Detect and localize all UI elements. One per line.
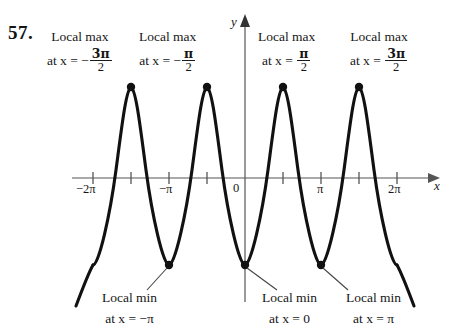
point-local-min-neg-pi (165, 261, 173, 269)
leader-local-min-zero (247, 268, 277, 290)
local-min-points (165, 261, 325, 269)
leader-local-min-neg-pi (147, 268, 167, 290)
point-local-max-neg-pi-2 (203, 83, 211, 91)
curve-tail-left (76, 265, 93, 306)
leader-lines (147, 268, 348, 290)
y-axis-arrowhead (240, 14, 250, 27)
point-local-max-3pi-2 (355, 83, 363, 91)
x-axis-arrowhead (428, 173, 440, 183)
point-local-min-zero (241, 261, 249, 269)
graph-figure (0, 0, 456, 327)
point-local-max-neg-3pi-2 (127, 83, 135, 91)
curve-tail-right (397, 265, 414, 306)
point-local-max-pi-2 (279, 83, 287, 91)
point-local-min-pi (317, 261, 325, 269)
leader-local-min-pi (323, 268, 348, 290)
